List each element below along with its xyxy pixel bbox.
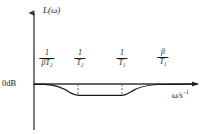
fraction-denominator: T₂ (74, 59, 85, 67)
fraction-denominator: T₁ (157, 58, 168, 66)
fraction: β T₁ (157, 48, 168, 67)
fraction: 1 T₂ (74, 49, 85, 68)
tick-label-1-over-t2: 1 T₂ (74, 49, 85, 68)
y-axis-label: L(ω) (43, 5, 60, 15)
fraction-numerator: 1 (39, 49, 54, 57)
plot-canvas (0, 0, 218, 134)
tick-label-beta-over-t1: β T₁ (157, 48, 168, 67)
fraction-denominator: T₁ (116, 59, 127, 67)
tick-label-1-over-t1: 1 T₁ (116, 49, 127, 68)
x-axis-label: ω/s−1 (172, 89, 189, 100)
x-axis-label-exponent: −1 (183, 89, 189, 95)
tick-label-1-over-beta-t2: 1 βT₂ (39, 49, 54, 68)
fraction: 1 βT₂ (39, 49, 54, 68)
fraction-denominator: βT₂ (39, 59, 54, 67)
x-axis-label-main: ω/s (172, 91, 183, 100)
zero-db-label: 0dB (2, 78, 16, 88)
fraction-numerator: 1 (74, 49, 85, 57)
fraction: 1 T₁ (116, 49, 127, 68)
bode-magnitude-figure: L(ω) 0dB ω/s−1 1 βT₂ 1 T₂ 1 T₁ β T₁ (0, 0, 218, 134)
fraction-numerator: β (157, 48, 168, 56)
fraction-numerator: 1 (116, 49, 127, 57)
